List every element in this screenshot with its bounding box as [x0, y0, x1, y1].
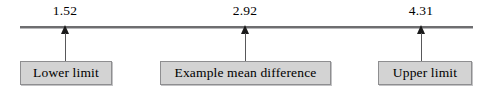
tick-label-upper: 4.31: [409, 2, 433, 19]
callout-box-mean: Example mean difference: [160, 61, 331, 85]
callout-box-upper: Upper limit: [378, 61, 472, 85]
tick-label-mean: 2.92: [233, 2, 257, 19]
tick-label-lower: 1.52: [53, 2, 77, 19]
confidence-interval-figure: 1.52 Lower limit 2.92 Example mean diffe…: [0, 0, 495, 93]
callout-label-upper: Upper limit: [393, 65, 457, 81]
connector-line-lower: [65, 33, 66, 61]
connector-line-upper: [421, 33, 422, 61]
callout-box-lower: Lower limit: [20, 61, 112, 85]
connector-line-mean: [245, 33, 246, 61]
callout-label-lower: Lower limit: [33, 65, 99, 81]
callout-label-mean: Example mean difference: [175, 65, 317, 81]
